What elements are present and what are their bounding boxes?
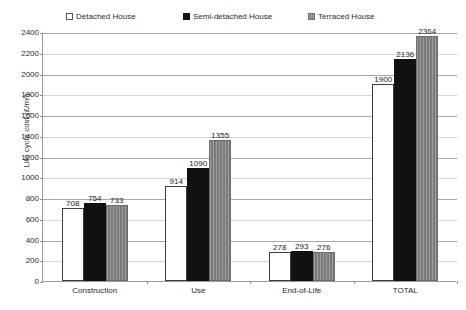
bar-value-label: 754 (88, 194, 101, 203)
x-axis-category-label: Construction (43, 286, 147, 295)
bar-value-label: 733 (110, 196, 123, 205)
life-cycle-cost-bar-chart: Detached House Semi-detached House Terra… (0, 0, 466, 310)
y-axis-tick-label: 800 (26, 195, 39, 203)
bar: 1355 (209, 140, 231, 281)
chart-legend: Detached House Semi-detached House Terra… (0, 8, 466, 24)
x-axis-tick-mark (457, 281, 458, 284)
y-axis-tick-label: 400 (26, 237, 39, 245)
y-axis-tick-label: 1600 (21, 112, 39, 120)
bar-group-bars: 190021362364 (354, 32, 458, 281)
bar-value-label: 1355 (211, 131, 229, 140)
bar-group-bars: 708754733 (43, 32, 147, 281)
y-axis-tick-label: 2000 (21, 71, 39, 79)
legend-label-semi-detached-house: Semi-detached House (193, 12, 272, 21)
bar-group: 190021362364TOTAL (354, 32, 458, 281)
bar-group-bars: 278293276 (250, 32, 354, 281)
y-axis-tick-label: 600 (26, 216, 39, 224)
bar: 1090 (187, 168, 209, 281)
legend-swatch-icon-semi-detached-house (183, 13, 190, 20)
bar-value-label: 1900 (374, 75, 392, 84)
bar-value-label: 914 (170, 177, 183, 186)
legend-swatch-icon-detached-house (66, 13, 73, 20)
bar: 754 (84, 203, 106, 281)
bar: 914 (165, 186, 187, 281)
bar: 278 (269, 252, 291, 281)
y-axis-tick-label: 200 (26, 257, 39, 265)
bar: 2364 (416, 36, 438, 281)
bar: 708 (62, 208, 84, 281)
y-axis-tick-label: 2200 (21, 50, 39, 58)
bar-group-bars: 91410901355 (147, 32, 251, 281)
bar: 2136 (394, 59, 416, 281)
bar: 733 (106, 205, 128, 281)
y-axis-tick-mark (40, 282, 43, 283)
y-axis-tick-label: 1800 (21, 91, 39, 99)
legend-swatch-icon-terraced-house (308, 13, 315, 20)
x-axis-tick-mark (354, 281, 355, 284)
bar: 293 (291, 251, 313, 281)
y-axis-tick-label: 2400 (21, 29, 39, 37)
y-axis-tick-label: 0 (35, 278, 39, 286)
x-axis-tick-mark (250, 281, 251, 284)
x-axis-category-label: End-of-Life (250, 286, 354, 295)
y-axis-tick-label: 1400 (21, 133, 39, 141)
bar-value-label: 293 (295, 242, 308, 251)
bar-value-label: 276 (317, 243, 330, 252)
y-axis-tick-label: 1200 (21, 154, 39, 162)
bar: 276 (313, 252, 335, 281)
legend-label-terraced-house: Terraced House (318, 12, 374, 21)
bar-value-label: 2364 (418, 27, 436, 36)
x-axis-category-label: Use (147, 286, 251, 295)
bar-value-label: 1090 (189, 159, 207, 168)
legend-item-detached-house: Detached House (66, 12, 136, 21)
legend-item-terraced-house: Terraced House (308, 12, 374, 21)
bar: 1900 (372, 84, 394, 281)
bar-group: 708754733Construction (43, 32, 147, 281)
legend-label-detached-house: Detached House (76, 12, 136, 21)
plot-area: 0200400600800100012001400160018002000220… (42, 33, 456, 282)
bar-group: 278293276End-of-Life (250, 32, 354, 281)
bar-group: 91410901355Use (147, 32, 251, 281)
y-axis-tick-label: 1000 (21, 174, 39, 182)
legend-item-semi-detached-house: Semi-detached House (183, 12, 272, 21)
x-axis-tick-mark (147, 281, 148, 284)
x-axis-category-label: TOTAL (354, 286, 458, 295)
bar-value-label: 2136 (396, 50, 414, 59)
bar-value-label: 278 (273, 243, 286, 252)
bar-value-label: 708 (66, 199, 79, 208)
